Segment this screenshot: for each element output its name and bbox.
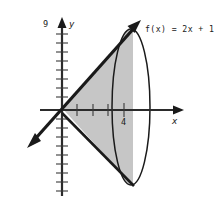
graph-canvas: 9 y 4 x f(x) = 2x + 1 [0, 0, 215, 209]
x-axis-arrow [173, 106, 184, 115]
y-axis-top-label: 9 [43, 19, 48, 29]
y-axis-arrow [58, 17, 67, 28]
x-axis-label: x [171, 116, 178, 126]
function-label: f(x) = 2x + 1 [145, 24, 214, 34]
x-axis-tick-label: 4 [121, 117, 126, 127]
y-axis-label: y [68, 19, 75, 29]
math-figure: 9 y 4 x f(x) = 2x + 1 [0, 0, 215, 209]
shaded-region [62, 29, 133, 186]
